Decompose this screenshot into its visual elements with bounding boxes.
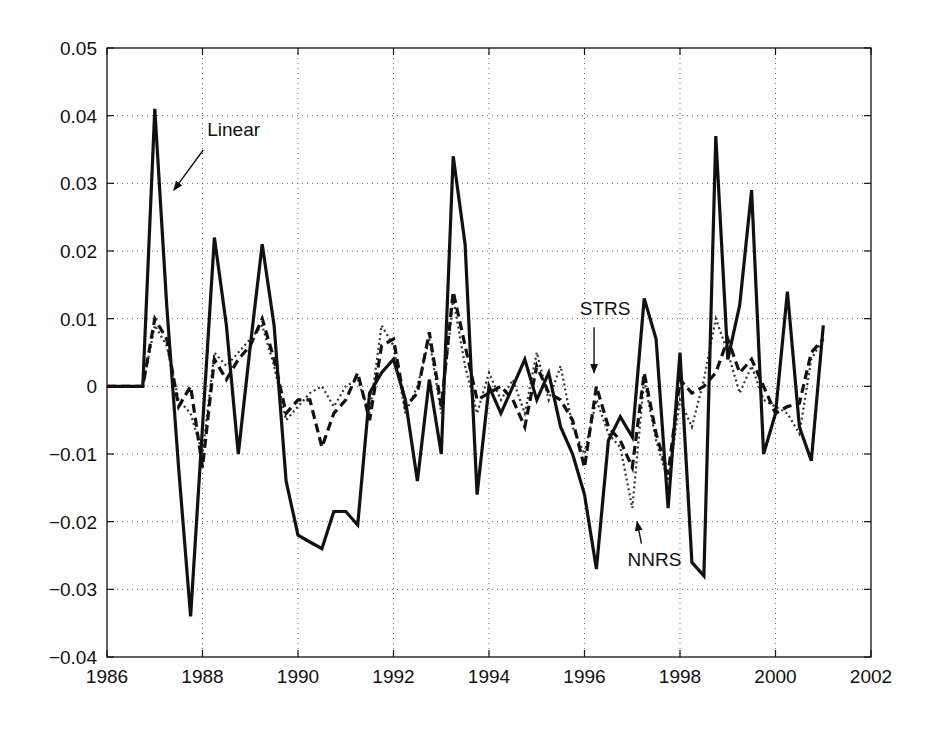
y-tick-label: 0.02 bbox=[60, 241, 97, 262]
y-axis-tick-labels: −0.04−0.03−0.02−0.0100.010.020.030.040.0… bbox=[49, 38, 98, 668]
x-tick-label: 1986 bbox=[86, 666, 128, 687]
x-tick-label: 1988 bbox=[181, 666, 223, 687]
y-tick-label: 0.01 bbox=[60, 309, 97, 330]
series-lines bbox=[107, 109, 823, 617]
x-tick-label: 1998 bbox=[659, 666, 701, 687]
annotation-strs-label: STRS bbox=[580, 298, 631, 319]
x-tick-label: 1992 bbox=[372, 666, 414, 687]
x-tick-label: 1996 bbox=[563, 666, 605, 687]
x-tick-label: 2002 bbox=[850, 666, 892, 687]
x-tick-label: 2000 bbox=[754, 666, 796, 687]
y-tick-label: 0.03 bbox=[60, 173, 97, 194]
annotation-linear-arrow-icon bbox=[174, 150, 203, 190]
x-axis-tick-labels: 198619881990199219941996199820002002 bbox=[86, 666, 892, 687]
y-tick-label: 0.04 bbox=[60, 106, 97, 127]
y-tick-label: −0.03 bbox=[49, 579, 97, 600]
x-tick-label: 1994 bbox=[468, 666, 511, 687]
y-tick-label: 0 bbox=[86, 376, 97, 397]
annotation-nnrs-arrow-icon bbox=[637, 522, 641, 544]
series-nnrs-line bbox=[107, 298, 823, 508]
x-tick-label: 1990 bbox=[277, 666, 319, 687]
annotation-nnrs-label: NNRS bbox=[627, 549, 681, 570]
y-tick-label: 0.05 bbox=[60, 38, 97, 59]
y-tick-label: −0.02 bbox=[49, 512, 97, 533]
y-tick-label: −0.04 bbox=[49, 647, 98, 668]
y-tick-label: −0.01 bbox=[49, 444, 97, 465]
annotation-linear-label: Linear bbox=[207, 119, 260, 140]
line-chart: 198619881990199219941996199820002002 −0.… bbox=[0, 0, 936, 729]
